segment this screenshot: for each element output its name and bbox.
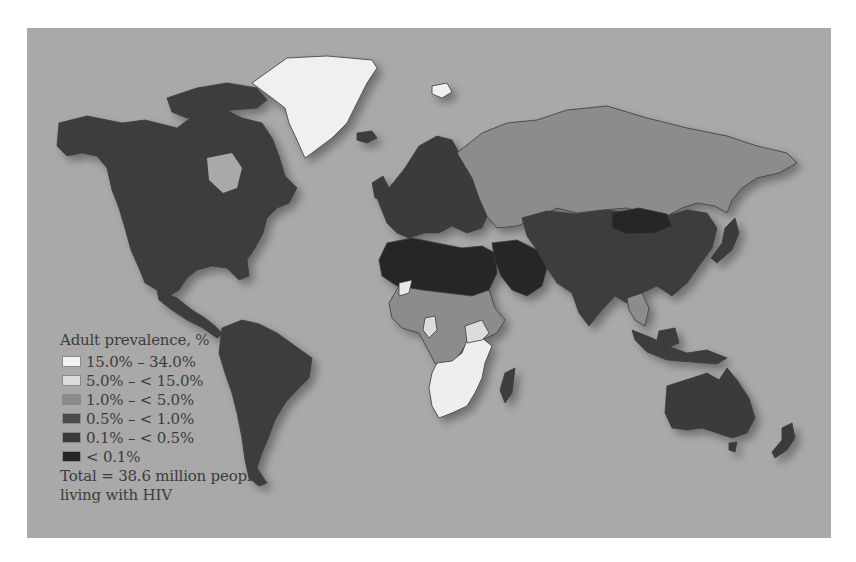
legend-total-line-1: Total = 38.6 million people — [60, 467, 260, 486]
legend-item-15-34: 15.0% – 34.0% — [60, 352, 260, 371]
legend-swatch — [62, 375, 81, 386]
legend-label: < 0.1% — [86, 448, 140, 466]
legend-item-under-01: < 0.1% — [60, 447, 260, 466]
legend-item-1-5: 1.0% – < 5.0% — [60, 390, 260, 409]
region-madagascar — [500, 368, 515, 403]
legend-item-5-15: 5.0% – < 15.0% — [60, 371, 260, 390]
region-southeast-asia — [627, 293, 649, 326]
legend-swatch — [62, 356, 81, 367]
region-north-africa — [379, 238, 497, 296]
legend-title: Adult prevalence, % — [60, 330, 260, 350]
map-legend: Adult prevalence, % 15.0% – 34.0% 5.0% –… — [60, 330, 260, 505]
legend-swatch — [62, 451, 81, 462]
region-new-zealand — [772, 423, 795, 458]
region-uk — [372, 176, 389, 200]
legend-total-line-2: living with HIV — [60, 486, 260, 505]
legend-label: 15.0% – 34.0% — [86, 353, 196, 371]
legend-label: 0.5% – < 1.0% — [86, 410, 194, 428]
region-canada-islands — [167, 83, 267, 118]
region-tasmania — [729, 442, 737, 452]
legend-label: 1.0% – < 5.0% — [86, 391, 194, 409]
region-svalbard — [432, 83, 452, 98]
legend-item-01-05: 0.1% – < 0.5% — [60, 428, 260, 447]
legend-label: 5.0% – < 15.0% — [86, 372, 203, 390]
legend-item-05-1: 0.5% – < 1.0% — [60, 409, 260, 428]
legend-label: 0.1% – < 0.5% — [86, 429, 194, 447]
region-australia — [665, 368, 755, 438]
region-russia — [457, 106, 797, 228]
region-indonesia — [632, 330, 727, 364]
region-iceland — [357, 131, 377, 143]
legend-swatch — [62, 394, 81, 405]
legend-swatch — [62, 432, 81, 443]
legend-swatch — [62, 413, 81, 424]
world-map: Adult prevalence, % 15.0% – 34.0% 5.0% –… — [27, 28, 831, 538]
